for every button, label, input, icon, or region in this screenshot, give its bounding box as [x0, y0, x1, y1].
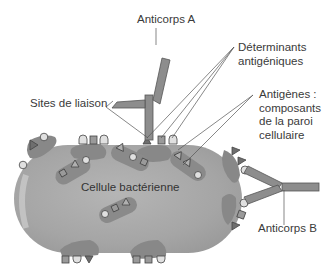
label-determinants-line1: Déterminants	[238, 41, 306, 55]
label-antibody-a: Anticorps A	[137, 13, 195, 27]
antibody-a	[112, 58, 170, 140]
label-cell: Cellule bactérienne	[81, 181, 179, 195]
label-antibody-b: Anticorps B	[258, 222, 317, 236]
label-determinants: Déterminants antigéniques	[238, 41, 306, 68]
diagram: Anticorps A Déterminants antigéniques Si…	[0, 0, 329, 266]
label-antigens-line2: composants	[259, 102, 321, 116]
bacterial-cell	[14, 136, 242, 259]
antibody-b	[244, 166, 319, 204]
label-antigens-line1: Antigènes :	[259, 88, 321, 102]
label-antigens: Antigènes : composants de la paroi cellu…	[259, 88, 321, 142]
label-antigens-line3: de la paroi	[259, 115, 321, 129]
label-determinants-line2: antigéniques	[238, 55, 306, 69]
label-binding-sites: Sites de liaison	[30, 97, 107, 111]
label-antigens-line4: cellulaire	[259, 129, 321, 143]
